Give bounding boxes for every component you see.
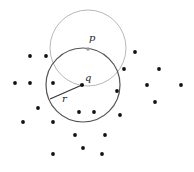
data-point bbox=[81, 146, 85, 150]
data-point bbox=[28, 54, 32, 58]
data-point bbox=[100, 152, 104, 156]
data-point bbox=[157, 67, 161, 71]
data-point bbox=[92, 110, 96, 114]
data-point bbox=[36, 106, 40, 110]
background bbox=[0, 0, 194, 172]
data-point bbox=[73, 133, 77, 137]
label-q: q bbox=[85, 72, 91, 83]
nearest-neighbor-diagram: p q r bbox=[0, 0, 194, 172]
data-point bbox=[179, 83, 183, 87]
data-point bbox=[153, 100, 157, 104]
data-point bbox=[51, 120, 55, 124]
data-point bbox=[13, 81, 17, 85]
data-point bbox=[51, 152, 55, 156]
data-point bbox=[77, 110, 81, 114]
data-point bbox=[122, 67, 126, 71]
data-point bbox=[51, 81, 55, 85]
data-point bbox=[28, 81, 32, 85]
point-p bbox=[86, 47, 90, 51]
point-q bbox=[80, 83, 84, 87]
label-p: p bbox=[89, 32, 96, 43]
data-point bbox=[21, 120, 25, 124]
data-point bbox=[44, 54, 48, 58]
data-point bbox=[103, 133, 107, 137]
data-point bbox=[133, 50, 137, 54]
data-point bbox=[118, 113, 122, 117]
data-point bbox=[115, 89, 119, 93]
data-point bbox=[145, 83, 149, 87]
